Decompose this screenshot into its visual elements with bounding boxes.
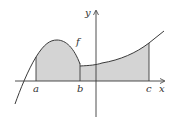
- x-axis-label: x: [159, 83, 165, 94]
- y-axis-label: y: [84, 7, 91, 18]
- point-a-label: a: [33, 83, 39, 94]
- shaded-region-right: [80, 43, 149, 81]
- function-area-diagram: f y x a b c: [0, 0, 175, 126]
- function-label: f: [75, 36, 82, 47]
- point-c-label: c: [146, 83, 152, 94]
- point-b-label: b: [77, 83, 83, 94]
- shaded-region-left: [36, 40, 80, 81]
